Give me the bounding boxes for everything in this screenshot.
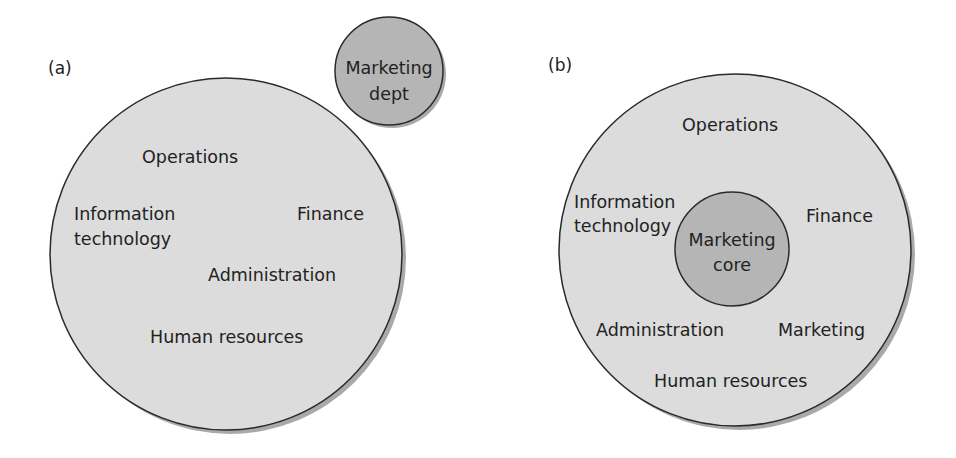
- panel-a-label-hr: Human resources: [150, 325, 303, 349]
- panel-a-organisation-circle: [50, 78, 402, 430]
- panel-a-label-finance: Finance: [297, 202, 364, 226]
- panel-a-marketing-dept-line1: Marketing: [345, 56, 432, 80]
- panel-a-label-it-line1: Information: [74, 202, 175, 226]
- panel-b-label-operations: Operations: [682, 113, 778, 137]
- panel-b-label-it-line1: Information: [574, 190, 675, 214]
- panel-a-label-operations: Operations: [142, 145, 238, 169]
- panel-a-label-it-line2: technology: [74, 227, 171, 251]
- panel-b-tag: (b): [548, 55, 572, 75]
- panel-a-tag: (a): [48, 58, 72, 78]
- panel-a-marketing-dept-line2: dept: [369, 82, 409, 106]
- panel-b-label-it-line2: technology: [574, 214, 671, 238]
- panel-b-label-marketing: Marketing: [778, 318, 865, 342]
- panel-b-label-finance: Finance: [806, 204, 873, 228]
- panel-b-label-administration: Administration: [596, 318, 724, 342]
- panel-a-label-administration: Administration: [208, 263, 336, 287]
- panel-b-marketing-core-line1: Marketing: [688, 228, 775, 252]
- panel-b-marketing-core-line2: core: [713, 253, 751, 277]
- panel-b-label-hr: Human resources: [654, 369, 807, 393]
